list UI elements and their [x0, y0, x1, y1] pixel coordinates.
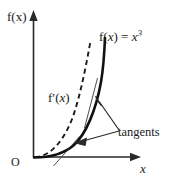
function-equation-label: f(x) = x3 — [99, 29, 142, 43]
function-label-exponent: 3 — [137, 28, 142, 38]
x-axis-label-text: x — [140, 161, 146, 176]
upper-leader-line — [100, 102, 120, 130]
tangent-leader-arrows — [76, 97, 120, 146]
y-axis — [29, 10, 37, 157]
y-axis-label-text: f(x) — [7, 9, 27, 24]
origin-label-text: O — [11, 155, 20, 169]
derivative-label: f′(x) — [48, 91, 70, 104]
function-label-prefix: f( — [99, 29, 108, 44]
origin-label: O — [11, 156, 20, 168]
function-label-middle: ) = — [113, 29, 131, 44]
tangents-label: tangents — [118, 126, 160, 139]
y-axis-arrowhead-icon — [29, 10, 37, 21]
lower-tangent-line — [54, 137, 80, 167]
figure-canvas: f(x) O x f(x) = x3 f′(x) tangents — [0, 0, 171, 182]
derivative-label-prefix: f′( — [48, 90, 60, 105]
x-axis-label: x — [140, 162, 146, 175]
figure-graphics — [0, 0, 171, 182]
x-axis-arrowhead-icon — [130, 153, 141, 161]
derivative-label-suffix: ) — [65, 90, 69, 105]
y-axis-label: f(x) — [7, 10, 27, 23]
tangents-label-text: tangents — [118, 125, 160, 139]
